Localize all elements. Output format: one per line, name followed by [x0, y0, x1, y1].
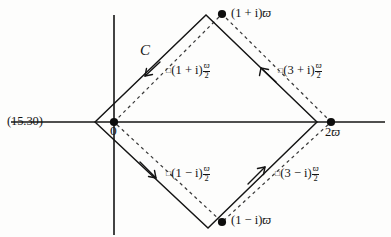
- point-1-minus-i-varpi: [218, 218, 226, 226]
- frac-upper-left: ϖ2: [203, 62, 210, 80]
- label-top-vertex-varpi: ϖ: [262, 6, 271, 20]
- label-half-lower-right-expr: (3 − i): [280, 166, 311, 180]
- equation-number: (15.30): [7, 115, 43, 128]
- figure-canvas: [0, 0, 391, 237]
- frac-lower-right: ϖ2: [312, 165, 319, 183]
- label-top-vertex: (1 + i)ϖ: [231, 7, 271, 20]
- frac-upper-right: ϖ2: [315, 62, 322, 80]
- label-right-axis-point: 2ϖ: [325, 126, 340, 139]
- label-half-lower-right: □(3 − i)ϖ2: [275, 165, 319, 183]
- label-half-upper-right: □(3 + i)ϖ2: [278, 62, 322, 80]
- label-bottom-vertex: (1 − i)ϖ: [231, 214, 271, 227]
- arrow-lower-left-shaft: [140, 162, 156, 178]
- origin-label: 0: [110, 124, 117, 138]
- frac-lower-left-den: 2: [203, 175, 210, 184]
- label-right-axis-varpi: ϖ: [331, 125, 340, 139]
- frac-lower-right-den: 2: [312, 175, 319, 184]
- label-top-vertex-expr: (1 + i): [231, 6, 262, 20]
- label-half-lower-left: □(1 − i)ϖ2: [166, 165, 210, 183]
- frac-upper-right-den: 2: [315, 72, 322, 81]
- label-half-upper-left: □(1 + i)ϖ2: [166, 62, 210, 80]
- label-bottom-vertex-expr: (1 − i): [231, 213, 262, 227]
- figure-container: (15.30) C 0 (1 + i)ϖ 2ϖ (1 − i)ϖ □(1 + i…: [0, 0, 391, 237]
- contour-label-c: C: [140, 43, 150, 58]
- frac-upper-left-den: 2: [203, 72, 210, 81]
- frac-lower-left: ϖ2: [203, 165, 210, 183]
- point-1-plus-i-varpi: [218, 10, 226, 18]
- label-half-upper-left-expr: (1 + i): [171, 63, 202, 77]
- label-half-upper-right-expr: (3 + i): [283, 63, 314, 77]
- label-bottom-vertex-varpi: ϖ: [262, 213, 271, 227]
- label-half-lower-left-expr: (1 − i): [171, 166, 202, 180]
